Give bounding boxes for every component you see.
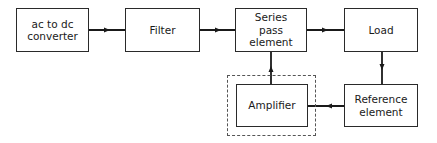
block-label: Filter (149, 24, 175, 37)
block-series-pass-element: Series pass element (235, 8, 307, 52)
block-amplifier: Amplifier (236, 84, 308, 127)
block-label: Series pass element (249, 11, 292, 49)
block-label: Reference element (355, 93, 408, 118)
block-ac-dc-converter: ac to dc converter (16, 8, 89, 52)
block-load: Load (344, 8, 418, 52)
block-label: ac to dc converter (27, 18, 78, 43)
block-filter: Filter (125, 8, 200, 52)
block-label: Amplifier (248, 99, 295, 112)
block-reference-element: Reference element (344, 84, 418, 127)
block-label: Load (368, 24, 393, 37)
